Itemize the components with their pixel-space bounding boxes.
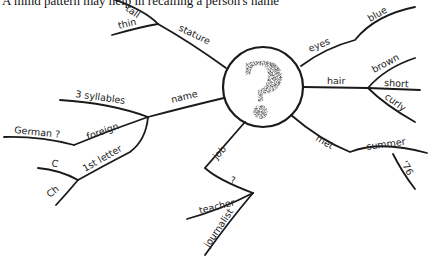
label-c: C <box>51 157 60 169</box>
label-3-syllables: 3 syllables <box>75 88 126 106</box>
branch-met <box>291 115 427 153</box>
label-met: met <box>314 132 336 151</box>
label-short: short <box>384 77 409 89</box>
label-unknown: ? <box>230 174 237 186</box>
label-ch: Ch <box>44 183 61 200</box>
question-mark-icon: ? <box>241 47 286 136</box>
label-brown: brown <box>370 51 401 74</box>
label-foreign: foreign <box>85 120 120 142</box>
label-stature: stature <box>177 22 212 47</box>
label-hair: hair <box>327 75 345 86</box>
label-summer: summer <box>366 136 406 152</box>
label-name: name <box>170 88 199 105</box>
branch-c <box>38 168 78 180</box>
label-76: '76 <box>399 159 416 177</box>
label-eyes: eyes <box>307 35 332 54</box>
mind-map: ? stature tall thin name 3 syllables for… <box>0 0 432 260</box>
branch-german <box>4 137 74 145</box>
branch-hair <box>303 87 368 88</box>
